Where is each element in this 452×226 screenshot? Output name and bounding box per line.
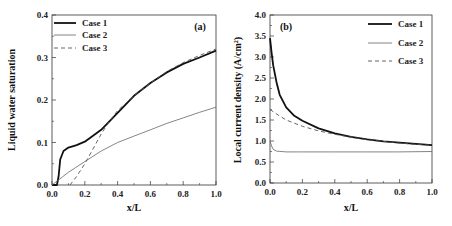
series-case-1 (52, 51, 216, 185)
panel-a-legend: Case 1 Case 2 Case 3 (54, 18, 108, 53)
panel-a-lines (52, 49, 216, 185)
y-tick-label: 0.0 (255, 178, 267, 188)
x-tick-label: 0.2 (79, 189, 91, 199)
x-tick-label: 0.0 (46, 189, 58, 199)
legend-a-case1: Case 1 (82, 18, 108, 28)
panel-b-xlabel: x/L (344, 202, 359, 213)
series-case-2 (52, 107, 216, 185)
x-tick-label: 0.2 (297, 187, 309, 197)
chart-figure: 0.00.20.40.60.81.00.00.10.20.30.4 (a) Ca… (0, 0, 452, 226)
panel-a-frame (52, 15, 216, 185)
y-tick-label: 0.4 (37, 10, 49, 20)
y-tick-label: 0.0 (37, 180, 49, 190)
panel-a-chart: 0.00.20.40.60.81.00.00.10.20.30.4 (a) Ca… (6, 10, 222, 213)
panel-b-label: (b) (280, 21, 292, 33)
x-tick-label: 0.6 (362, 187, 374, 197)
y-tick-label: 0.5 (255, 157, 267, 167)
legend-b-case3: Case 3 (398, 56, 424, 66)
x-tick-label: 1.0 (426, 187, 438, 197)
y-tick-label: 3.5 (255, 31, 267, 41)
x-tick-label: 1.0 (210, 189, 222, 199)
panel-a-ticks: 0.00.20.40.60.81.00.00.10.20.30.4 (37, 10, 222, 199)
x-tick-label: 0.4 (112, 189, 124, 199)
y-tick-label: 0.3 (37, 53, 49, 63)
y-tick-label: 4.0 (255, 10, 267, 20)
panel-a-xlabel: x/L (127, 202, 142, 213)
panel-b-chart: 0.00.20.40.60.81.00.00.51.01.52.02.53.03… (232, 10, 438, 213)
x-tick-label: 0.8 (394, 187, 406, 197)
series-case-1 (270, 38, 432, 145)
legend-b-case2: Case 2 (398, 38, 424, 48)
panel-b-ylabel: Local current density (A/cm²) (232, 37, 244, 163)
legend-a-case3: Case 3 (82, 43, 108, 53)
panel-b-legend: Case 1 Case 2 Case 3 (368, 19, 424, 66)
y-tick-label: 0.2 (37, 95, 49, 105)
y-tick-label: 2.5 (255, 73, 267, 83)
y-tick-label: 1.0 (255, 136, 267, 146)
x-tick-label: 0.8 (178, 189, 190, 199)
x-tick-label: 0.0 (264, 187, 276, 197)
y-tick-label: 1.5 (255, 115, 267, 125)
series-case-3 (70, 49, 216, 185)
x-tick-label: 0.6 (145, 189, 157, 199)
legend-b-case1: Case 1 (398, 19, 424, 29)
y-tick-label: 0.1 (37, 138, 49, 148)
y-tick-label: 2.0 (255, 94, 267, 104)
panel-a-label: (a) (194, 21, 206, 33)
y-tick-label: 3.0 (255, 52, 267, 62)
legend-a-case2: Case 2 (82, 30, 108, 40)
panel-a-ylabel: Liquid water saturation (6, 49, 17, 151)
x-tick-label: 0.4 (329, 187, 341, 197)
